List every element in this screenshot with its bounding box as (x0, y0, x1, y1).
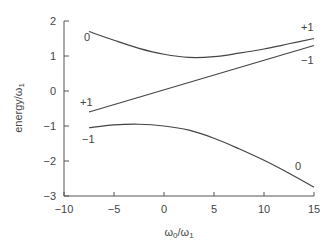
label-middle-left: +1 (80, 96, 93, 108)
label-upper-right: +1 (301, 21, 314, 33)
y-axis-title: energy/ω1 (12, 83, 26, 133)
label-lower-left: −1 (82, 133, 95, 145)
y-tick-label: 1 (50, 50, 56, 62)
y-tick-label: 2 (50, 15, 56, 27)
label-upper-left: 0 (84, 31, 90, 43)
x-tick-label: 15 (308, 203, 320, 215)
x-tick-label: 5 (211, 203, 217, 215)
y-ticks: −3−2−1012 (43, 15, 69, 202)
y-tick-label: −3 (43, 190, 56, 202)
energy-curve (89, 124, 314, 187)
energy-level-chart: −3−2−1012 −10−5051015 0 +1 −1 +1 −1 0 ω0… (0, 0, 334, 250)
x-tick-label: −5 (108, 203, 121, 215)
label-middle-right: −1 (301, 54, 314, 66)
x-axis-title: ω0/ω1 (164, 226, 194, 240)
x-ticks: −10−5051015 (55, 192, 320, 215)
curves (89, 32, 314, 188)
energy-curve (89, 46, 314, 113)
x-tick-label: −10 (55, 203, 74, 215)
energy-curve (89, 32, 314, 58)
y-tick-label: −2 (43, 155, 56, 167)
label-lower-right: 0 (295, 160, 301, 172)
y-tick-label: 0 (50, 85, 56, 97)
x-tick-label: 0 (161, 203, 167, 215)
y-tick-label: −1 (43, 120, 56, 132)
x-tick-label: 10 (258, 203, 270, 215)
